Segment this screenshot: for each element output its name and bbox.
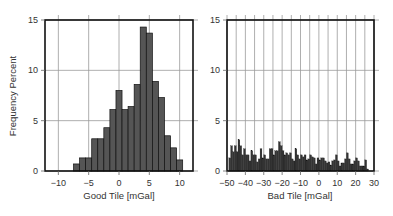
histogram-bar xyxy=(262,158,264,171)
histogram-bar xyxy=(286,153,288,171)
histogram-bar xyxy=(134,84,140,171)
histogram-bar xyxy=(256,162,258,171)
histogram-bar xyxy=(334,160,336,171)
histogram-bar xyxy=(146,33,152,171)
left-x-axis-title: Good Tile [mGal] xyxy=(83,190,154,201)
histogram-bar xyxy=(269,149,271,171)
histogram-bar xyxy=(297,155,299,171)
histogram-bar xyxy=(231,146,233,171)
histogram-bar xyxy=(282,151,284,171)
histogram-bar xyxy=(284,155,286,171)
histogram-bar xyxy=(350,164,352,171)
histogram-bar xyxy=(104,128,110,171)
left-bars xyxy=(74,27,183,171)
histogram-bar xyxy=(348,159,350,171)
y-tick-label: 10 xyxy=(210,65,220,75)
figure: 051015−10−50510 Frequency Percent Good T… xyxy=(0,0,393,216)
histogram-bar xyxy=(92,139,98,171)
histogram-bar xyxy=(271,149,273,171)
good-tile-histogram: 051015−10−50510 Frequency Percent Good T… xyxy=(7,15,198,201)
histogram-bar xyxy=(280,146,282,171)
histogram-bar xyxy=(346,153,348,171)
histogram-bar xyxy=(275,151,277,171)
histogram-bar xyxy=(140,27,146,171)
histogram-bar xyxy=(236,152,238,171)
histogram-bar xyxy=(255,155,257,171)
histogram-bar xyxy=(337,161,339,171)
histogram-bar xyxy=(295,149,297,171)
histogram-bar xyxy=(302,157,304,171)
y-tick-label: 5 xyxy=(215,116,220,126)
histogram-bar xyxy=(74,164,80,171)
histogram-bar xyxy=(365,160,367,171)
histogram-bar xyxy=(128,107,134,171)
histogram-bar xyxy=(244,149,246,171)
histogram-bar xyxy=(304,155,306,171)
histogram-bar xyxy=(323,158,325,171)
histogram-bar xyxy=(326,163,328,171)
histogram-bar xyxy=(345,159,347,171)
y-tick-label: 10 xyxy=(28,65,38,75)
bad-tile-histogram: 051015−50−40−30−20−100102030 Bad Tile [m… xyxy=(210,15,379,201)
histogram-bar xyxy=(330,165,332,171)
histogram-bar xyxy=(299,159,301,171)
histogram-bar xyxy=(291,159,293,171)
x-tick-label: 0 xyxy=(316,178,321,188)
histogram-bar xyxy=(328,162,330,171)
x-tick-label: −10 xyxy=(51,178,66,188)
histogram-bar xyxy=(319,160,321,171)
histogram-bar xyxy=(234,146,236,171)
histogram-bar xyxy=(152,81,158,171)
histogram-bar xyxy=(110,110,116,171)
x-tick-label: −50 xyxy=(219,178,234,188)
x-tick-label: 0 xyxy=(116,178,121,188)
x-tick-label: −40 xyxy=(238,178,253,188)
histogram-bar xyxy=(242,155,244,171)
histogram-bar xyxy=(253,155,255,171)
histogram-bar xyxy=(229,158,231,171)
x-tick-label: 20 xyxy=(351,178,361,188)
histogram-bar xyxy=(306,160,308,171)
histogram-bar xyxy=(245,155,247,171)
y-tick-label: 5 xyxy=(33,116,38,126)
histogram-bar xyxy=(352,164,354,171)
histogram-bar xyxy=(258,159,260,171)
y-tick-label: 0 xyxy=(215,166,220,176)
histogram-bar xyxy=(238,140,240,171)
x-tick-label: −30 xyxy=(256,178,271,188)
right-bars xyxy=(229,140,369,171)
histogram-bar xyxy=(264,155,266,171)
histogram-bar xyxy=(341,163,343,171)
histogram-bar xyxy=(317,158,319,171)
histogram-bar xyxy=(273,155,275,171)
x-tick-label: −5 xyxy=(84,178,94,188)
histogram-bar xyxy=(293,161,295,171)
histogram-bar xyxy=(251,151,253,171)
histogram-bar xyxy=(332,161,334,171)
histogram-bar xyxy=(289,153,291,171)
histogram-bar xyxy=(357,161,359,171)
y-tick-label: 15 xyxy=(28,15,38,25)
histogram-bar xyxy=(164,136,170,171)
y-tick-label: 0 xyxy=(33,166,38,176)
histogram-bar xyxy=(313,158,315,171)
histogram-bar xyxy=(86,158,92,171)
x-tick-label: 30 xyxy=(369,178,379,188)
histogram-bar xyxy=(240,146,242,171)
histogram-bar xyxy=(278,142,280,171)
histogram-bar xyxy=(122,110,128,171)
histogram-bar xyxy=(177,160,183,171)
histogram-bar xyxy=(158,98,164,171)
histogram-bar xyxy=(249,161,251,171)
histogram-bar xyxy=(260,149,262,171)
histogram-bar xyxy=(356,158,358,171)
right-gridlines xyxy=(227,15,379,171)
x-tick-label: 10 xyxy=(175,178,185,188)
histogram-bar xyxy=(98,139,104,171)
x-tick-label: −20 xyxy=(274,178,289,188)
histogram-bar xyxy=(247,155,249,171)
x-tick-label: −10 xyxy=(293,178,308,188)
x-tick-label: 10 xyxy=(332,178,342,188)
x-tick-label: 5 xyxy=(147,178,152,188)
histogram-bar xyxy=(288,155,290,171)
